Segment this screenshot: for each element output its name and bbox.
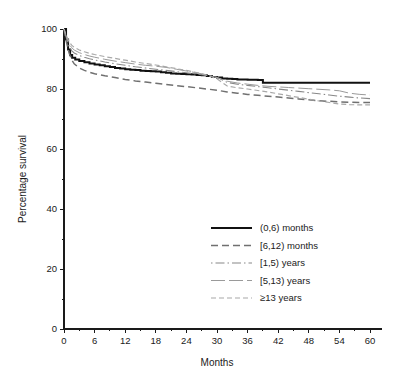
y-tick-label-80: 80: [46, 83, 57, 94]
x-tick-label-24: 24: [181, 335, 192, 346]
y-tick-label-20: 20: [46, 263, 57, 274]
x-tick-label-60: 60: [365, 335, 376, 346]
legend-label-5: ≥13 years: [260, 292, 302, 303]
legend-label-4: [5,13) years: [260, 275, 310, 286]
x-tick-label-42: 42: [273, 335, 284, 346]
x-tick-label-36: 36: [242, 335, 253, 346]
x-tick-label-0: 0: [61, 335, 66, 346]
curve-1: [64, 29, 370, 83]
x-tick-label-18: 18: [151, 335, 162, 346]
kaplan-meier-plot: 02040608010006121824303642485460MonthsPe…: [0, 0, 404, 387]
legend-label-3: [1,5) years: [260, 257, 305, 268]
x-axis-title: Months: [201, 357, 234, 368]
y-tick-label-0: 0: [52, 323, 57, 334]
x-tick-label-48: 48: [304, 335, 315, 346]
curve-4: [64, 29, 370, 95]
y-axis-title: Percentage survival: [17, 135, 28, 223]
legend-label-1: (0,6) months: [260, 222, 314, 233]
x-tick-label-30: 30: [212, 335, 223, 346]
x-tick-label-54: 54: [334, 335, 345, 346]
survival-chart-figure: 02040608010006121824303642485460MonthsPe…: [0, 0, 404, 387]
x-tick-label-6: 6: [92, 335, 97, 346]
x-tick-label-12: 12: [120, 335, 131, 346]
y-tick-label-40: 40: [46, 203, 57, 214]
y-tick-label-100: 100: [41, 23, 57, 34]
curve-3: [64, 29, 370, 99]
legend-label-2: [6,12) months: [260, 240, 318, 251]
y-tick-label-60: 60: [46, 143, 57, 154]
